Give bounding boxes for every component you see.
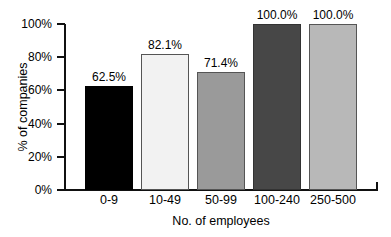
bar-value-label-0-9: 62.5% (85, 71, 133, 83)
x-category-label-10-49: 10-49 (137, 194, 193, 207)
y-tick-80 (57, 56, 65, 58)
bar-value-label-100-240: 100.0% (249, 9, 305, 21)
y-tick-label-100: 100% (21, 18, 52, 30)
y-tick-label-40: 40% (28, 118, 52, 130)
y-tick-20 (57, 156, 65, 158)
y-tick-label-20: 20% (28, 151, 52, 163)
bar-250-500 (309, 24, 357, 190)
y-tick-label-80: 80% (28, 51, 52, 63)
y-axis-line (64, 24, 66, 191)
y-tick-100 (57, 23, 65, 25)
bar-value-label-250-500: 100.0% (305, 9, 361, 21)
bar-10-49 (141, 54, 189, 190)
y-axis-title: % of companies (16, 37, 30, 177)
y-tick-label-60: 60% (28, 84, 52, 96)
bar-0-9 (85, 86, 133, 190)
y-tick-40 (57, 123, 65, 125)
x-category-label-100-240: 100-240 (247, 194, 307, 207)
y-tick-label-0: 0% (35, 184, 52, 196)
x-axis-title: No. of employees (64, 214, 378, 228)
x-category-label-250-500: 250-500 (303, 194, 363, 207)
x-axis-end-tick (376, 182, 378, 191)
y-tick-60 (57, 89, 65, 91)
bar-50-99 (197, 72, 245, 190)
y-tick-0 (57, 189, 65, 191)
bar-value-label-10-49: 82.1% (141, 39, 189, 51)
x-category-label-0-9: 0-9 (81, 194, 137, 207)
bar-100-240 (253, 24, 301, 190)
bar-chart: 100% 80% 60% 40% 20% 0% % of companies N… (0, 0, 391, 237)
x-category-label-50-99: 50-99 (193, 194, 249, 207)
bar-value-label-50-99: 71.4% (197, 57, 245, 69)
